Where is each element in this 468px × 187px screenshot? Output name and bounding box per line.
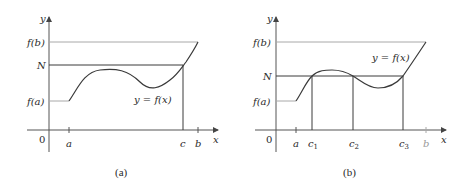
x-label-c2: c2 <box>349 138 359 151</box>
fa-label: f(a) <box>252 96 271 107</box>
x-label-b: b <box>195 138 201 149</box>
intermediate-value-theorem-figure: y x 0 f(b) N f(a) a c b y = f(x) (a) y x… <box>0 0 468 187</box>
y-axis-label: y <box>266 13 273 24</box>
x-label-a: a <box>293 138 299 149</box>
origin-label: 0 <box>266 134 272 145</box>
x-label-b: b <box>423 138 429 149</box>
panel-b: y x 0 f(b) N f(a) a c1 c2 c3 b y = f(x) … <box>252 13 447 179</box>
x-label-c1: c1 <box>308 138 318 151</box>
n-label: N <box>36 60 47 71</box>
function-curve <box>69 42 198 101</box>
x-label-c3: c3 <box>399 138 409 151</box>
panel-a: y x 0 f(b) N f(a) a c b y = f(x) (a) <box>26 13 219 179</box>
curve-label: y = f(x) <box>133 94 172 105</box>
caption-a: (a) <box>115 166 128 179</box>
x-axis-label: x <box>213 134 219 145</box>
origin-label: 0 <box>39 134 45 145</box>
fb-label: f(b) <box>26 37 45 48</box>
x-label-c: c <box>180 138 186 149</box>
n-label: N <box>262 71 273 82</box>
caption-b: (b) <box>343 166 356 179</box>
x-label-a: a <box>66 138 72 149</box>
fb-label: f(b) <box>252 37 271 48</box>
y-axis-label: y <box>39 13 46 24</box>
curve-label: y = f(x) <box>371 52 410 63</box>
function-curve <box>296 42 426 101</box>
fa-label: f(a) <box>26 96 45 107</box>
x-axis-label: x <box>441 134 447 145</box>
